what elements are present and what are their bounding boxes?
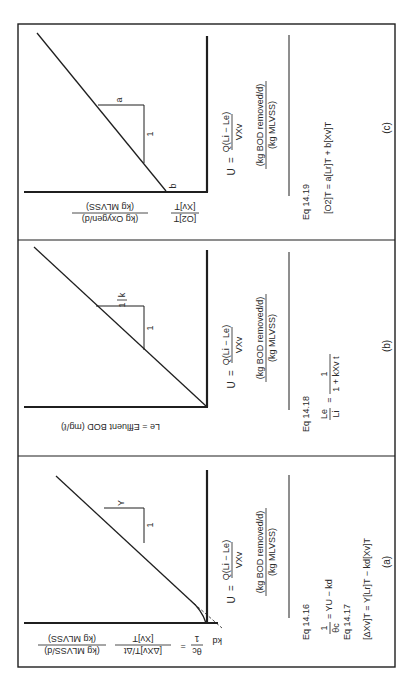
panel-c-regression-line bbox=[37, 33, 166, 191]
panel-c-slope-label: a bbox=[114, 97, 124, 102]
panel-a-eq1-lhs-num: 1 bbox=[319, 625, 329, 630]
panel-a: Y 1 kd (kg MLVSS/d) (kg MLVSS) [ΔXv]T/Δt… bbox=[24, 470, 392, 656]
panel-c-intercept-label: b bbox=[168, 183, 178, 188]
panel-b-eq-rhs-den: 1 + kXv t bbox=[331, 356, 341, 392]
figure-canvas: a 1 b (kg Oxygen/d) (kg MLVSS) [O2]T [Xv… bbox=[0, 0, 416, 693]
panel-a-regression-line bbox=[56, 476, 190, 600]
panel-a-u-symbol: U bbox=[226, 596, 237, 603]
panel-a-ordinate-units: (kg MLVSS/d) (kg MLVSS) bbox=[38, 634, 106, 656]
panel-a-u-units-den: (kg MLVSS) bbox=[267, 528, 277, 576]
panel-c-eq-ref: Eq 14.19 bbox=[301, 184, 311, 220]
panel-a-u-definition: U = Q(Li − Le) VXv bbox=[221, 540, 244, 604]
panel-b-eq-lhs-num: Le bbox=[319, 409, 329, 419]
panel-b-eq-lhs-den: Li bbox=[331, 410, 341, 417]
panel-a-eq2-ref: Eq 14.17 bbox=[342, 604, 352, 640]
panel-a-slope-label: Y bbox=[116, 500, 126, 506]
panel-a-eq1-lhs-den: θc bbox=[331, 623, 341, 633]
panel-b-slope-den: k bbox=[117, 292, 127, 297]
panel-c-ordinate-num: [O2]T bbox=[173, 214, 196, 224]
panel-a-u-den: VXv bbox=[234, 551, 244, 568]
panel-c-ordinate-units-den: (kg MLVSS) bbox=[86, 202, 134, 212]
panel-a-ordinate-lhs-num: 1 bbox=[194, 634, 199, 644]
panel-c-u-num: Q(Li − Le) bbox=[221, 112, 231, 152]
panel-c-u-units: (kg BOD removed/d) (kg MLVSS) bbox=[255, 81, 277, 169]
panel-a-u-eq: = bbox=[226, 585, 237, 591]
panel-a-ordinate-ratio: [ΔXv]T/Δt [Xv]T bbox=[115, 634, 171, 656]
panel-b-eq-rhs: 1 1 + kXv t bbox=[319, 354, 341, 394]
panel-a-eq1-lhs: 1 θc bbox=[319, 622, 341, 634]
panel-b-u-units: (kg BOD removed/d) (kg MLVSS) bbox=[255, 294, 277, 382]
panel-b-ordinate-label: Le = Effluent BOD (mg/ℓ) bbox=[61, 422, 160, 432]
panel-a-label: (a) bbox=[381, 556, 392, 568]
panel-a-ordinate-eq: = bbox=[180, 642, 185, 652]
panel-b-u-definition: U = Q(Li − Le) VXv bbox=[221, 325, 244, 389]
panel-a-eq1-rhs: = YU − kd bbox=[324, 579, 334, 619]
panel-b: 1 k 1 Le = Effluent BOD (mg/ℓ) U = Q(Li … bbox=[24, 247, 392, 432]
panel-b-label: (b) bbox=[381, 340, 392, 352]
panel-c-label: (c) bbox=[381, 122, 392, 134]
panel-b-eq-ref: Eq 14.18 bbox=[301, 396, 311, 432]
panel-c-slope-run: 1 bbox=[145, 131, 155, 136]
panel-a-ordinate-lhs: θc 1 bbox=[191, 634, 203, 656]
panel-b-u-units-num: (kg BOD removed/d) bbox=[255, 297, 265, 380]
panel-c-ordinate-den: [Xv]T bbox=[174, 202, 196, 212]
panel-b-regression-line bbox=[34, 247, 206, 406]
panel-b-slope-label: 1 k bbox=[117, 292, 127, 307]
panel-b-eq-eq: = bbox=[324, 397, 334, 402]
panel-c-ordinate-ratio: [O2]T [Xv]T bbox=[171, 202, 199, 224]
panel-b-slope-triangle bbox=[96, 306, 144, 350]
panel-c-u-eq: = bbox=[226, 157, 237, 163]
panel-b-u-units-den: (kg MLVSS) bbox=[267, 314, 277, 362]
panel-a-intercept-label: kd bbox=[212, 636, 222, 646]
panel-a-u-num: Q(Li − Le) bbox=[221, 540, 231, 580]
panel-c-u-definition: U = Q(Li − Le) VXv bbox=[221, 112, 244, 176]
panel-b-u-symbol: U bbox=[226, 381, 237, 388]
panel-c-u-units-den: (kg MLVSS) bbox=[267, 101, 277, 149]
panel-b-u-num: Q(Li − Le) bbox=[221, 325, 231, 365]
panel-c-ordinate-units-num: (kg Oxygen/d) bbox=[82, 214, 139, 224]
panel-a-eq1-ref: Eq 14.16 bbox=[301, 604, 311, 640]
panel-a-ordinate-units-num: (kg MLVSS/d) bbox=[44, 646, 99, 656]
panel-c-u-symbol: U bbox=[226, 168, 237, 175]
panel-a-eq2-text: [ΔXv]T = Y[Lr]T − kd[Xv]T bbox=[362, 537, 372, 640]
panel-a-slope-run: 1 bbox=[145, 522, 155, 527]
panel-c: a 1 b (kg Oxygen/d) (kg MLVSS) [O2]T [Xv… bbox=[24, 33, 392, 224]
panel-a-ordinate-lhs-den: θc bbox=[192, 646, 202, 656]
panel-a-u-units: (kg BOD removed/d) (kg MLVSS) bbox=[255, 508, 277, 596]
panel-c-ordinate-label: (kg Oxygen/d) (kg MLVSS) bbox=[72, 202, 148, 224]
panel-b-u-eq: = bbox=[226, 370, 237, 376]
panel-a-u-units-num: (kg BOD removed/d) bbox=[255, 511, 265, 594]
panel-c-eq-text: [O2]T = a[Lr]T + b[Xv]T bbox=[323, 121, 333, 214]
panel-b-slope-num: 1 bbox=[117, 302, 127, 307]
panel-b-eq-lhs: Le Li bbox=[319, 408, 341, 420]
panel-b-eq-rhs-num: 1 bbox=[319, 371, 329, 376]
panel-c-u-units-num: (kg BOD removed/d) bbox=[255, 84, 265, 167]
panel-c-u-den: VXv bbox=[234, 123, 244, 140]
panel-a-ordinate-den: [Xv]T bbox=[132, 634, 154, 644]
panel-a-ordinate-units-den: (kg MLVSS) bbox=[48, 634, 96, 644]
panel-c-slope-triangle bbox=[98, 105, 144, 163]
panel-b-u-den: VXv bbox=[234, 336, 244, 353]
panel-a-ordinate-num: [ΔXv]T/Δt bbox=[123, 646, 162, 656]
panel-b-slope-run: 1 bbox=[145, 325, 155, 330]
